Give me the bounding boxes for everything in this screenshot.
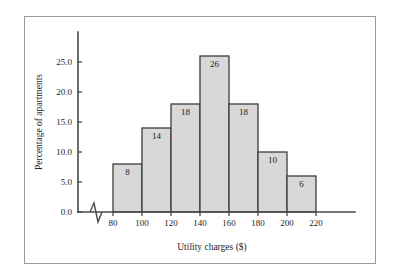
bar-value-label: 10 [268, 155, 278, 165]
bar-value-label: 18 [181, 107, 191, 117]
y-tick-label: 20.0 [56, 87, 72, 97]
x-tick-label: 100 [135, 218, 149, 228]
y-tick-label: 5.0 [61, 177, 73, 187]
bar-value-label: 26 [210, 59, 220, 69]
y-tick-label: 0.0 [61, 207, 73, 217]
x-tick-label: 220 [309, 218, 323, 228]
bar-value-label: 8 [125, 167, 130, 177]
bar-value-label: 14 [152, 131, 162, 141]
histogram-bar [229, 104, 258, 212]
bars-group [113, 56, 316, 212]
histogram-bar [200, 56, 229, 212]
x-tick-labels: 80100120140160180200220 [109, 218, 324, 228]
x-tick-label: 80 [109, 218, 119, 228]
y-tick-labels: 0.05.010.015.020.025.0 [56, 57, 72, 217]
x-axis-title: Utility charges ($) [177, 242, 246, 253]
x-tick-label: 160 [222, 218, 236, 228]
bar-value-label: 6 [299, 179, 304, 189]
x-tick-label: 180 [251, 218, 265, 228]
y-tick-label: 25.0 [56, 57, 72, 67]
y-tick-label: 10.0 [56, 147, 72, 157]
histogram-figure: 80100120140160180200220 0.05.010.015.020… [0, 0, 398, 278]
plot-area: 80100120140160180200220 0.05.010.015.020… [0, 0, 398, 278]
x-tick-label: 140 [193, 218, 207, 228]
y-axis-title: Percentage of apartments [34, 74, 44, 170]
histogram-bar [171, 104, 200, 212]
y-tick-label: 15.0 [56, 117, 72, 127]
bar-value-label: 18 [239, 107, 249, 117]
x-tick-label: 200 [280, 218, 294, 228]
x-tick-label: 120 [164, 218, 178, 228]
